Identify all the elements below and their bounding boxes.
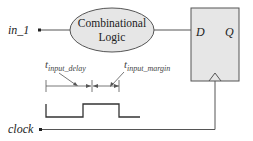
combinational-logic-block — [70, 8, 154, 52]
clock-pin — [39, 128, 42, 131]
input-margin-leader — [112, 72, 124, 85]
clock-wire — [42, 81, 215, 130]
d-input-label: D — [195, 25, 205, 39]
logic-label-line1: Combinational — [78, 17, 146, 29]
arrowhead-icon — [114, 84, 119, 88]
input-margin-label: tinput_margin — [124, 58, 170, 73]
signal-waveform — [46, 104, 140, 117]
flipflop-box — [191, 8, 239, 81]
input-pin — [38, 29, 41, 32]
arrowhead-icon — [86, 84, 91, 88]
input-delay-leader — [59, 73, 76, 85]
clock-label: clock — [8, 122, 34, 136]
arrowhead-icon — [73, 82, 78, 86]
logic-label-line2: Logic — [99, 31, 126, 44]
input-delay-label: tinput_delay — [45, 58, 86, 73]
timing-diagram: in_1 Combinational Logic D Q clock tinpu… — [0, 0, 253, 141]
arrowhead-icon — [93, 84, 98, 88]
input-label: in_1 — [8, 23, 29, 37]
q-output-label: Q — [225, 25, 234, 39]
